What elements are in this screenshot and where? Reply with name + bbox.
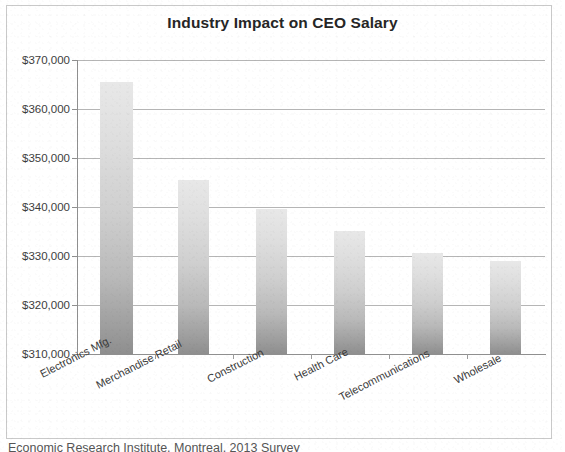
x-axis-category-label-health-care: Health Care <box>292 345 350 382</box>
x-axis-category-label-construction: Construction <box>205 346 265 385</box>
x-axis-category-label-wholesale: Wholesale <box>452 352 503 386</box>
x-axis-labels: Electronics Mfg. Merchandise Retail Cons… <box>0 0 565 452</box>
x-axis-category-label-telecommunications: Telecommunications <box>337 347 431 403</box>
x-axis-category-label-electronics-mfg: Electronics Mfg. <box>38 333 113 379</box>
figure-caption: Economic Research Institute, Montreal, 2… <box>8 441 558 452</box>
chart-title: Industry Impact on CEO Salary <box>0 14 565 32</box>
